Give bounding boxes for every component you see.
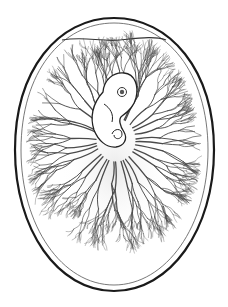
egg-drawing [0, 0, 228, 307]
egg-illustration [0, 0, 228, 307]
embryo-pupil [120, 90, 124, 94]
